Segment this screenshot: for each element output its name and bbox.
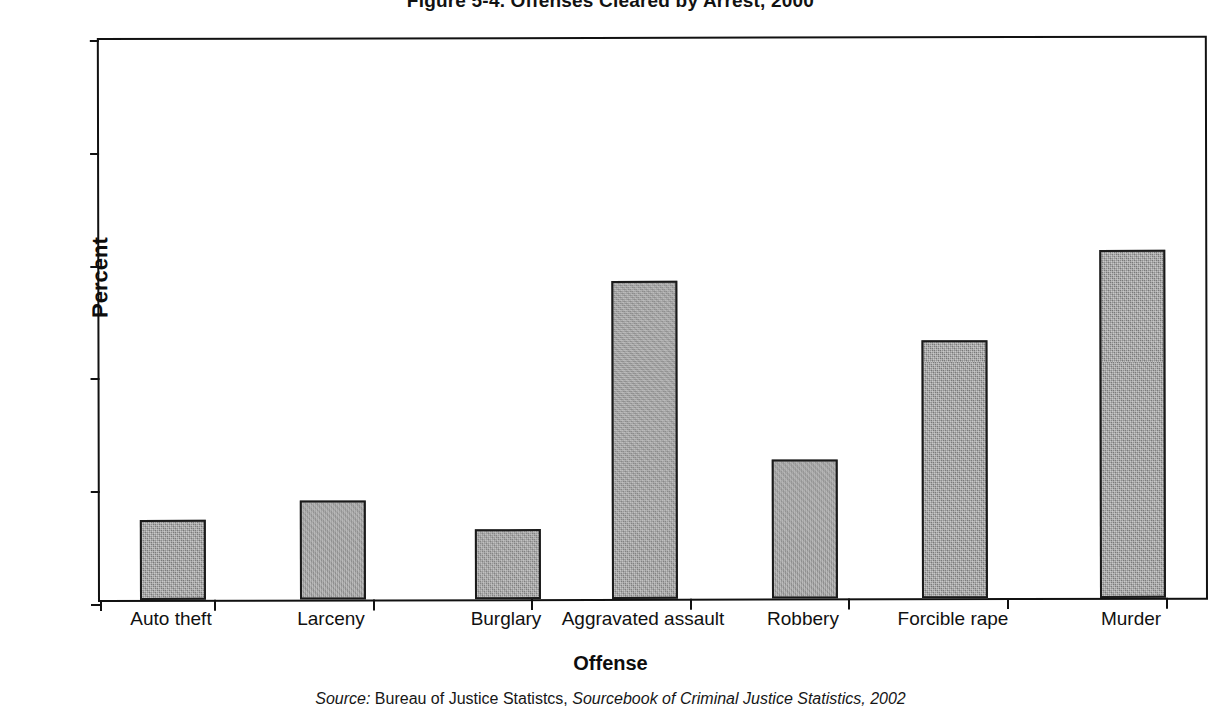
y-axis-tick-mark	[91, 491, 100, 493]
x-axis-label-aggravated-assault: Aggravated assault	[562, 608, 725, 630]
plot-inner: 020406080100	[99, 38, 1206, 600]
x-axis-label-auto-theft: Auto theft	[130, 608, 211, 630]
bar-robbery	[772, 459, 838, 598]
source-note: Source: Bureau of Justice Statistcs, Sou…	[0, 690, 1221, 708]
plot-area: 020406080100 Percent	[97, 36, 1208, 602]
y-axis-tick-mark	[91, 378, 100, 380]
x-axis-label-forcible-rape: Forcible rape	[898, 608, 1009, 630]
x-axis-label-burglary: Burglary	[471, 608, 542, 630]
source-label: Source:	[315, 690, 370, 707]
x-axis-title: Offense	[0, 652, 1221, 675]
bar-murder	[1099, 250, 1166, 598]
y-axis-tick-mark	[91, 604, 100, 606]
x-axis-category-labels: Auto theftLarcenyBurglaryAggravated assa…	[98, 608, 1208, 638]
source-year: 2002	[870, 690, 906, 707]
chart-title: Figure 5-4. Offenses Cleared by Arrest, …	[0, 0, 1221, 12]
bar-auto-theft	[140, 520, 206, 600]
source-publication: Sourcebook of Criminal Justice Statistic…	[572, 690, 865, 707]
y-axis-tick-mark	[90, 40, 99, 42]
x-axis-label-larceny: Larceny	[297, 608, 365, 630]
bar-larceny	[300, 500, 366, 599]
bar-forcible-rape	[921, 340, 988, 598]
bar-burglary	[475, 529, 541, 600]
y-axis-title: Percent	[87, 237, 113, 318]
x-axis-label-murder: Murder	[1101, 608, 1161, 630]
bar-aggravated-assault	[611, 281, 678, 599]
source-agency: Bureau of Justice Statistcs,	[375, 690, 568, 707]
y-axis-tick-mark	[90, 153, 99, 155]
x-axis-label-robbery: Robbery	[767, 608, 839, 630]
